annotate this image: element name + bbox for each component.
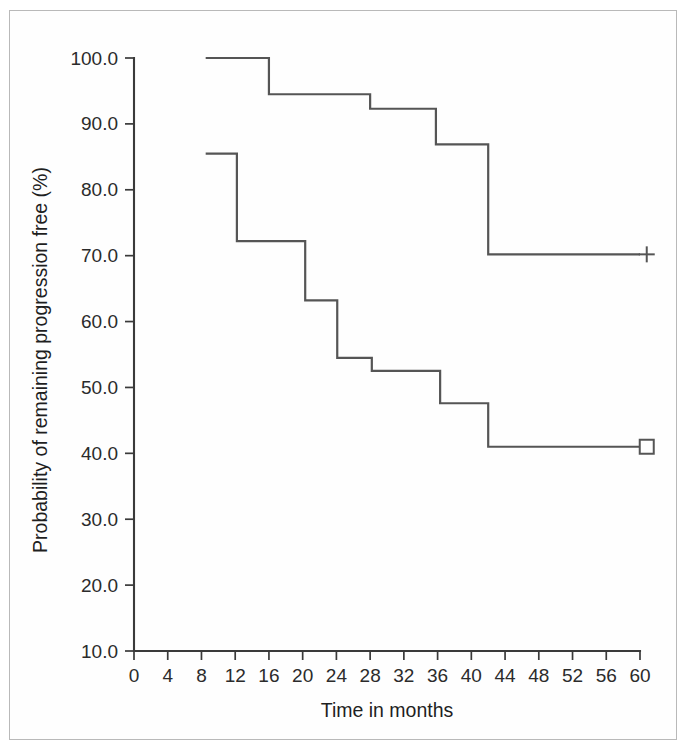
- y-tick-label: 90.0: [81, 113, 118, 134]
- x-tick-label: 56: [596, 665, 617, 686]
- y-axis: 10.020.030.040.050.060.070.080.090.0100.…: [70, 48, 134, 662]
- y-tick-label: 60.0: [81, 311, 118, 332]
- x-tick-label: 20: [292, 665, 313, 686]
- x-tick-label: 16: [258, 665, 279, 686]
- kaplan-meier-plot: 10.020.030.040.050.060.070.080.090.0100.…: [0, 0, 690, 754]
- figure-container: 10.020.030.040.050.060.070.080.090.0100.…: [0, 0, 690, 754]
- x-tick-label: 48: [528, 665, 549, 686]
- y-tick-label: 20.0: [81, 575, 118, 596]
- marker-square-icon: [640, 440, 654, 454]
- x-tick-label: 12: [225, 665, 246, 686]
- y-tick-label: 100.0: [70, 48, 118, 69]
- x-tick-label: 32: [393, 665, 414, 686]
- y-tick-label: 80.0: [81, 179, 118, 200]
- y-tick-label: 50.0: [81, 377, 118, 398]
- survival-curves: [206, 58, 640, 447]
- x-tick-label: 52: [562, 665, 583, 686]
- y-tick-label: 10.0: [81, 641, 118, 662]
- x-tick-label: 24: [326, 665, 348, 686]
- x-tick-label: 36: [427, 665, 448, 686]
- survival-curve-lower-curve: [206, 154, 640, 447]
- survival-curve-upper-curve: [206, 58, 640, 254]
- x-tick-label: 44: [494, 665, 516, 686]
- y-axis-title: Probability of remaining progression fre…: [29, 167, 51, 553]
- y-tick-label: 40.0: [81, 443, 118, 464]
- y-tick-label: 30.0: [81, 509, 118, 530]
- x-tick-label: 40: [461, 665, 482, 686]
- x-tick-label: 4: [162, 665, 173, 686]
- x-tick-label: 60: [629, 665, 650, 686]
- x-tick-label: 8: [196, 665, 207, 686]
- y-tick-label: 70.0: [81, 245, 118, 266]
- x-axis: 04812162024283236404448525660: [129, 651, 651, 686]
- x-axis-title: Time in months: [321, 699, 454, 721]
- x-tick-label: 28: [360, 665, 381, 686]
- series-markers: [639, 246, 655, 453]
- marker-plus-icon: [639, 246, 655, 262]
- x-tick-label: 0: [129, 665, 140, 686]
